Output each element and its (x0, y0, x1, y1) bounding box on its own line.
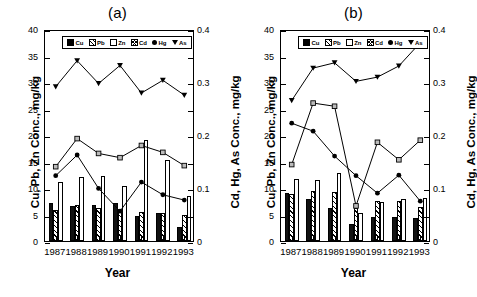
x-tick (356, 236, 357, 241)
bar-zn-1992 (165, 160, 170, 241)
x-tick (141, 236, 142, 241)
y-axis-left-tick-label: 0 (33, 237, 38, 247)
y-tick (188, 217, 193, 218)
bar-zn-1987 (58, 182, 63, 241)
legend-a: Cu Pb Zn Cd Hg As (62, 36, 192, 49)
x-axis-tick-label-1990: 1990 (344, 246, 365, 257)
plot-area-b (280, 30, 430, 242)
x-axis-tick-label-1989: 1989 (87, 246, 108, 257)
y-axis-right-tick-label: 0 (433, 237, 438, 247)
y-axis-left-tick-label: 40 (264, 25, 274, 35)
as-triangle-marker-icon (172, 40, 178, 45)
x-tick (377, 236, 378, 241)
y-axis-right-tick-label: 0.2 (197, 131, 210, 141)
y-tick (188, 190, 193, 191)
x-axis-tick-label-1990: 1990 (108, 246, 129, 257)
y-axis-left-tick-label: 10 (264, 184, 274, 194)
x-axis-tick-label-1992: 1992 (151, 246, 172, 257)
x-axis-title: Year (0, 266, 235, 280)
plot-area-a (44, 30, 194, 242)
legend-label-zn: Zn (118, 40, 125, 46)
chart-panel-b: (b) Cu, Pb, Zn Conc., mg/kg Cd, Hg, As C… (236, 0, 471, 297)
y-tick (281, 58, 286, 59)
x-axis-tick-label-1993: 1993 (173, 246, 194, 257)
y-tick (281, 164, 286, 165)
y-tick (424, 243, 429, 244)
legend-label-cu: Cu (76, 40, 84, 46)
y-tick (424, 84, 429, 85)
x-tick (313, 236, 314, 241)
legend-label-cu: Cu (312, 40, 320, 46)
x-axis-tick-label-1993: 1993 (409, 246, 430, 257)
x-tick (120, 236, 121, 241)
bar-zn-1988 (315, 180, 320, 241)
y-axis-right-tick-label: 0.4 (197, 25, 210, 35)
x-tick (420, 236, 421, 241)
legend-item-cu: Cu (303, 39, 320, 46)
y-axis-left-tick-label: 10 (28, 184, 38, 194)
bar-zn-1992 (401, 199, 406, 241)
y-tick (45, 164, 50, 165)
zn-swatch-icon (346, 39, 353, 46)
bar-zn-1989 (337, 173, 342, 241)
y-tick (45, 243, 50, 244)
y-tick (424, 217, 429, 218)
y-tick (281, 217, 286, 218)
y-tick (281, 84, 286, 85)
y-tick (45, 111, 50, 112)
y-axis-left-tick-label: 25 (28, 105, 38, 115)
cd-swatch-icon (131, 39, 138, 46)
bar-zn-1993 (423, 198, 428, 241)
legend-item-zn: Zn (346, 39, 362, 46)
x-axis-tick-label-1991: 1991 (366, 246, 387, 257)
y-axis-left-tick-label: 30 (28, 78, 38, 88)
y-tick (188, 164, 193, 165)
y-axis-left-tick-label: 15 (264, 158, 274, 168)
y-tick (188, 84, 193, 85)
x-tick (184, 236, 185, 241)
y-axis-left-tick-label: 20 (28, 131, 38, 141)
cd-swatch-icon (367, 39, 374, 46)
x-axis-title: Year (236, 266, 471, 280)
legend-label-as: As (415, 40, 423, 46)
legend-b: Cu Pb Zn Cd Hg As (298, 36, 428, 49)
legend-item-cu: Cu (67, 39, 84, 46)
y-axis-left-tick-label: 30 (264, 78, 274, 88)
legend-label-hg: Hg (395, 40, 403, 46)
y-tick (281, 111, 286, 112)
y-tick (188, 243, 193, 244)
y-tick (45, 58, 50, 59)
bar-zn-1987 (294, 179, 299, 241)
y-tick (188, 31, 193, 32)
legend-label-zn: Zn (354, 40, 361, 46)
legend-label-pb: Pb (333, 40, 341, 46)
x-axis-tick-label-1991: 1991 (130, 246, 151, 257)
x-axis-tick-label-1989: 1989 (323, 246, 344, 257)
x-axis-tick-label-1988: 1988 (66, 246, 87, 257)
legend-label-cd: Cd (139, 40, 147, 46)
y-axis-left-tick-label: 0 (269, 237, 274, 247)
x-axis-tick-label-1987: 1987 (44, 246, 65, 257)
chart-panel-a: (a) Cu, Pb, Zn Conc., mg/kg Cd, Hg, As C… (0, 0, 235, 297)
y-tick (45, 137, 50, 138)
x-tick (292, 236, 293, 241)
bar-zn-1991 (144, 140, 149, 241)
x-tick (335, 236, 336, 241)
y-axis-right-tick-label: 0 (197, 237, 202, 247)
y-axis-left-tick-label: 35 (28, 52, 38, 62)
legend-label-pb: Pb (97, 40, 105, 46)
legend-item-hg: Hg (152, 40, 167, 46)
legend-item-zn: Zn (110, 39, 126, 46)
legend-item-as: As (172, 40, 187, 46)
y-tick (424, 190, 429, 191)
x-tick (77, 236, 78, 241)
bar-zn-1988 (79, 177, 84, 241)
y-tick (424, 164, 429, 165)
legend-label-cd: Cd (375, 40, 383, 46)
y-axis-right-tick-label: 0.1 (197, 184, 210, 194)
y-axis-left-tick-label: 25 (264, 105, 274, 115)
x-axis-tick-label-1988: 1988 (302, 246, 323, 257)
cu-swatch-icon (303, 39, 310, 46)
bar-zn-1990 (358, 213, 363, 241)
